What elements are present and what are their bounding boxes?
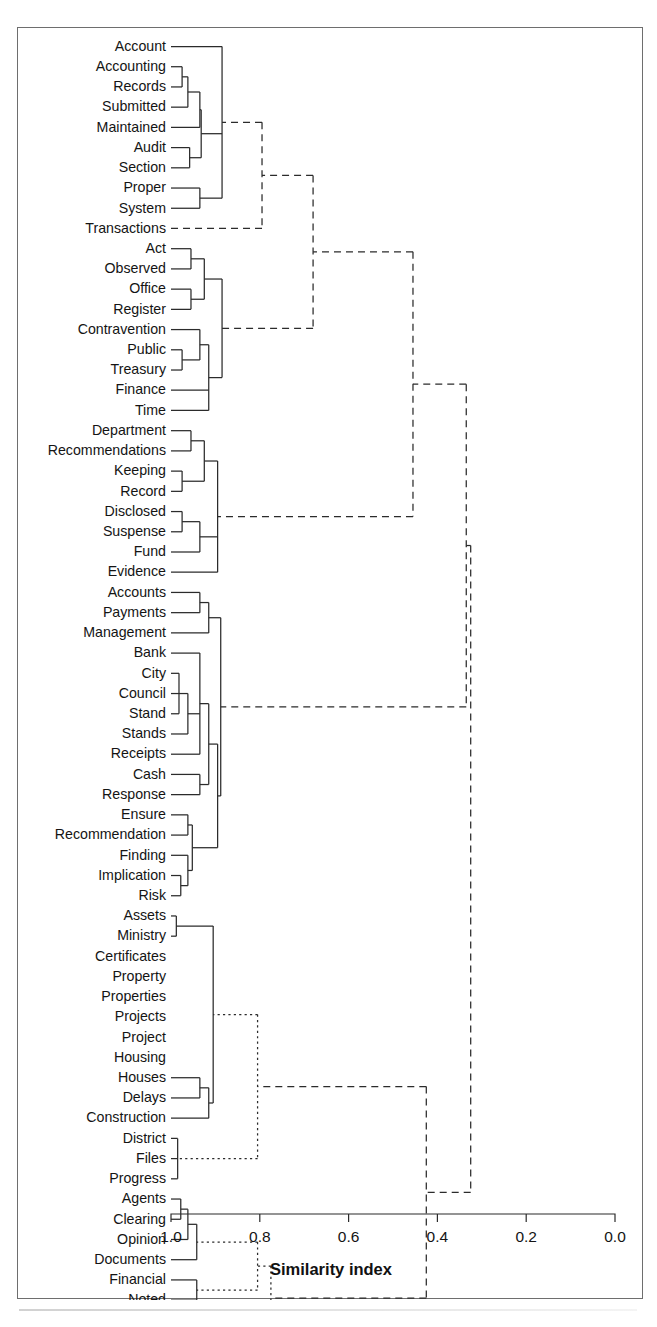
leaf-label: Fund <box>134 543 166 559</box>
leaf-label: Documents <box>94 1251 166 1267</box>
leaf-label: Payments <box>103 604 166 620</box>
x-axis: 1.00.80.60.40.20.0 <box>160 1214 626 1245</box>
leaf-label: Progress <box>109 1170 166 1186</box>
leaf-label: Projects <box>115 1008 166 1024</box>
leaf-label: Housing <box>114 1049 166 1065</box>
leaf-label: Submitted <box>102 98 166 114</box>
leaf-label: Files <box>136 1150 166 1166</box>
leaf-label: District <box>123 1130 166 1146</box>
leaf-label: Bank <box>134 644 167 660</box>
leaf-label: Register <box>113 301 166 317</box>
leaf-label: Implication <box>98 867 166 883</box>
leaf-label: Accounts <box>108 584 166 600</box>
leaf-label: Proper <box>123 179 166 195</box>
leaf-label: Public <box>127 341 166 357</box>
leaf-label: Recommendation <box>55 826 166 842</box>
leaf-label: Act <box>146 240 167 256</box>
leaf-label: Clearing <box>113 1211 166 1227</box>
leaf-label: Stand <box>129 705 166 721</box>
leaf-label: Council <box>119 685 166 701</box>
leaf-label: Section <box>119 159 166 175</box>
leaf-label: Accounting <box>96 58 166 74</box>
x-tick-label: 0.4 <box>427 1228 449 1245</box>
leaf-label: Cash <box>133 766 166 782</box>
x-tick-label: 0.6 <box>338 1228 360 1245</box>
x-tick-label: 0.8 <box>249 1228 271 1245</box>
leaf-label: Evidence <box>108 563 166 579</box>
figure-frame: AccountAccountingRecordsSubmittedMaintai… <box>17 27 643 1299</box>
leaf-label: Receipts <box>111 745 166 761</box>
leaf-label-group: AccountAccountingRecordsSubmittedMaintai… <box>48 38 167 1300</box>
dendrogram-plot: AccountAccountingRecordsSubmittedMaintai… <box>18 28 644 1300</box>
x-tick-label: 1.0 <box>160 1228 182 1245</box>
x-tick-label: 0.0 <box>604 1228 626 1245</box>
leaf-label: Risk <box>138 887 166 903</box>
leaf-label: Response <box>102 786 166 802</box>
leaf-label: Records <box>113 78 166 94</box>
leaf-label: Observed <box>104 260 166 276</box>
leaf-label: Audit <box>134 139 166 155</box>
x-axis-title: Similarity index <box>270 1260 393 1278</box>
leaf-label: Finance <box>116 381 167 397</box>
leaf-label: Project <box>122 1029 166 1045</box>
x-tick-label: 0.2 <box>515 1228 537 1245</box>
leaf-label: Opinion <box>117 1231 166 1247</box>
leaf-label: Property <box>112 968 167 984</box>
leaf-label: Recommendations <box>48 442 166 458</box>
leaf-label: Certificates <box>95 948 166 964</box>
leaf-label: Ensure <box>121 806 166 822</box>
leaf-label: Stands <box>122 725 166 741</box>
leaf-label: Construction <box>86 1109 166 1125</box>
leaf-label: Delays <box>123 1089 166 1105</box>
leaf-label: Office <box>129 280 166 296</box>
leaf-label: Financial <box>109 1271 166 1287</box>
leaf-label: Record <box>120 483 166 499</box>
leaf-label: Keeping <box>114 462 166 478</box>
leaf-label: Account <box>115 38 166 54</box>
leaf-label: Time <box>135 402 166 418</box>
leaf-label: Management <box>83 624 166 640</box>
leaf-label: Assets <box>123 907 166 923</box>
axis-line <box>171 1214 615 1222</box>
leaf-label: Agents <box>122 1190 166 1206</box>
leaf-label: City <box>142 665 167 681</box>
leaf-label: Transactions <box>85 220 166 236</box>
leaf-label: Department <box>92 422 166 438</box>
leaf-label: System <box>119 200 166 216</box>
leaf-label: Noted <box>128 1291 166 1300</box>
leaf-label: Maintained <box>97 119 166 135</box>
leaf-label: Properties <box>101 988 166 1004</box>
dendrogram-link-group <box>171 47 471 1301</box>
leaf-label: Disclosed <box>104 503 166 519</box>
leaf-label: Finding <box>119 847 166 863</box>
leaf-label: Houses <box>118 1069 166 1085</box>
leaf-label: Treasury <box>111 361 167 377</box>
scan-edge-shadow <box>19 1309 637 1311</box>
leaf-label: Ministry <box>117 927 167 943</box>
leaf-label: Contravention <box>78 321 166 337</box>
leaf-label: Suspense <box>103 523 166 539</box>
